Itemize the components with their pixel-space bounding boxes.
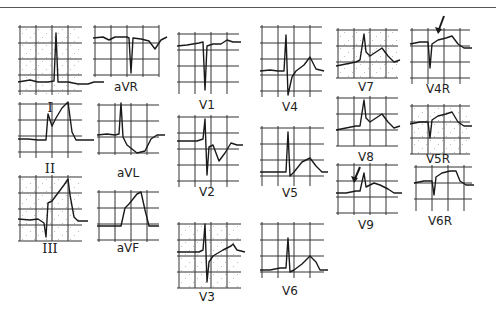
ecg-grid xyxy=(336,82,404,148)
ecg-waveform xyxy=(410,112,472,138)
lead-label-v3: V3 xyxy=(187,290,227,304)
ecg-lead-v9 xyxy=(336,163,398,215)
ecg-grid xyxy=(336,14,404,80)
ecg-grid xyxy=(177,208,247,290)
ecg-waveform xyxy=(336,34,400,66)
ecg-lead-v4r xyxy=(410,28,470,84)
ecg-grid xyxy=(93,11,165,79)
lead-label-avf: aVF xyxy=(108,241,148,255)
ecg-lead-v2 xyxy=(177,115,239,187)
ecg-grid xyxy=(177,101,245,189)
ecg-waveform xyxy=(177,119,243,175)
ecg-lead-avr xyxy=(93,25,159,77)
ecg-grid xyxy=(177,18,245,96)
lead-label-v2: V2 xyxy=(187,185,227,199)
ecg-lead-v1 xyxy=(177,32,239,94)
ecg-grid xyxy=(18,161,88,243)
ecg-waveform xyxy=(410,36,472,68)
ecg-grid xyxy=(410,14,476,86)
ecg-grid xyxy=(410,90,476,156)
ecg-lead-v4 xyxy=(260,25,322,97)
ecg-lead-i xyxy=(18,25,82,95)
ecg-grid xyxy=(414,151,478,213)
ecg-waveform xyxy=(336,173,402,193)
ecg-grid xyxy=(260,112,330,188)
lead-label-v9: V9 xyxy=(346,218,386,232)
lead-label-v5: V5 xyxy=(270,186,310,200)
ecg-waveform xyxy=(336,100,400,130)
lead-label-v6r: V6R xyxy=(420,214,460,228)
ecg-grid xyxy=(260,208,330,280)
ecg-grid xyxy=(18,11,88,97)
ecg-lead-v6 xyxy=(260,222,324,278)
ecg-waveform xyxy=(18,179,88,237)
ecg-lead-v6r xyxy=(414,165,472,211)
ecg-lead-v5 xyxy=(260,126,324,186)
lead-label-iii: III xyxy=(30,241,70,256)
ecg-grid xyxy=(97,176,165,244)
ecg-grid xyxy=(336,149,404,217)
ecg-waveform xyxy=(18,102,94,140)
lead-label-v6: V6 xyxy=(270,284,310,298)
ecg-lead-avf xyxy=(97,190,159,242)
top-border-line xyxy=(0,7,496,8)
ecg-lead-iii xyxy=(18,175,82,241)
ecg-grid xyxy=(18,88,88,160)
ecg-lead-ii xyxy=(18,102,82,158)
ecg-waveform xyxy=(93,37,167,73)
ecg-lead-avl xyxy=(97,103,159,155)
ecg-lead-v8 xyxy=(336,96,398,146)
ecg-grid xyxy=(97,89,165,157)
ecg-lead-v3 xyxy=(177,222,241,288)
ecg-waveform xyxy=(260,35,324,95)
ecg-lead-v7 xyxy=(336,28,398,78)
ecg-waveform xyxy=(97,192,159,226)
ecg-grid xyxy=(260,11,328,99)
ecg-lead-v5r xyxy=(410,104,470,154)
